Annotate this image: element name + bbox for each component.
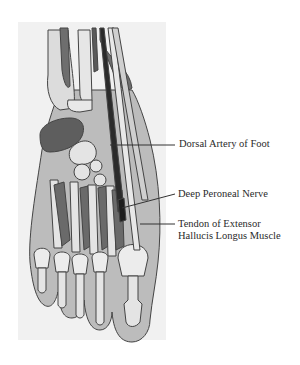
toe-2-joint bbox=[92, 252, 108, 272]
toe-3-joint bbox=[72, 254, 88, 274]
toe-4-phalanx bbox=[58, 272, 66, 308]
toe-5-phalanx bbox=[38, 268, 46, 293]
toe-5-joint bbox=[34, 248, 50, 268]
foot-anatomy-illustration bbox=[0, 0, 300, 365]
peroneus-muscle bbox=[92, 28, 98, 72]
cuneiform-2 bbox=[90, 160, 102, 172]
label-dorsal-artery: Dorsal Artery of Foot bbox=[179, 138, 270, 150]
cuneiform-1 bbox=[74, 164, 90, 180]
fibula bbox=[78, 30, 92, 105]
label-tendon-ehl-line1: Tendon of Extensor bbox=[178, 218, 261, 230]
toe-3-phalanx bbox=[76, 274, 84, 318]
metatarsal-4 bbox=[70, 182, 80, 252]
label-tendon-ehl-line2: Hallucis Longus Muscle bbox=[178, 230, 281, 242]
deep-peroneal-nerve bbox=[118, 198, 126, 222]
label-deep-peroneal-nerve: Deep Peroneal Nerve bbox=[178, 188, 268, 200]
metatarsal-3 bbox=[88, 185, 98, 254]
cuneiform-3 bbox=[94, 174, 106, 186]
talus bbox=[68, 100, 93, 112]
toe-4-joint bbox=[54, 252, 70, 272]
toe-2-phalanx bbox=[96, 272, 104, 325]
hallux-joint bbox=[118, 245, 148, 277]
